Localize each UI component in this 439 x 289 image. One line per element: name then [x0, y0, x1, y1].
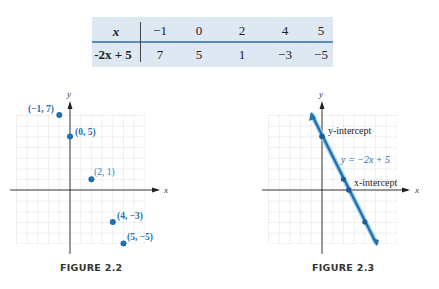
x-axis-label: x [163, 185, 168, 195]
data-point [362, 220, 367, 225]
point-label: (5, −5) [127, 232, 153, 243]
y-intercept-point [319, 134, 325, 140]
data-point [88, 176, 94, 182]
figure-2-2-caption: FIGURE 2.2 [60, 262, 122, 273]
data-point [341, 177, 346, 182]
y-axis-arrow-icon [320, 101, 325, 109]
x-axis-label: x [414, 185, 419, 195]
x-axis-arrow-icon [152, 188, 160, 193]
data-point [110, 219, 116, 225]
figure-2-2-graph: x y (−1, 7) (0, 5) (2, 1) (4, −3) (5, −5… [10, 89, 168, 254]
x-intercept-label: x-intercept [354, 177, 398, 188]
y-intercept-label: y-intercept [328, 125, 372, 136]
x-axis-arrow-icon [402, 188, 410, 193]
point-label: (2, 1) [94, 167, 115, 178]
y-axis-arrow-icon [68, 101, 73, 109]
equation-label: y = −2x + 5 [340, 154, 390, 165]
graphs-canvas: x y (−1, 7) (0, 5) (2, 1) (4, −3) (5, −5… [0, 0, 439, 289]
data-point [67, 134, 73, 140]
figure-2-3-caption: FIGURE 2.3 [312, 262, 374, 273]
point-label: (4, −3) [117, 211, 143, 222]
figure-2-3-graph: x y y-intercept y = −2x + 5 x-intercept [262, 89, 419, 254]
data-point [56, 112, 62, 118]
y-axis-label: y [66, 89, 71, 99]
point-label: (−1, 7) [28, 104, 54, 115]
point-label: (0, 5) [75, 127, 96, 138]
data-point [121, 241, 127, 247]
x-intercept-point [346, 187, 352, 193]
y-axis-label: y [318, 89, 323, 99]
